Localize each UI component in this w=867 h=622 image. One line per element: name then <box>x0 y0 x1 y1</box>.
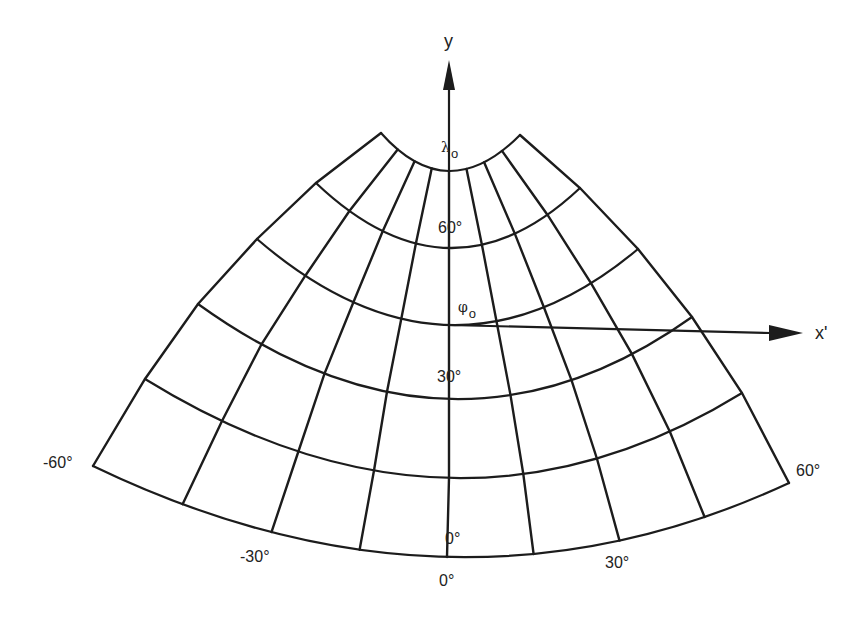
x-axis-arrowhead-icon <box>769 325 803 341</box>
axes-group <box>443 60 803 341</box>
parallel-0-label: 0° <box>445 531 460 547</box>
lambda-symbol: λ <box>441 139 450 155</box>
meridian-0-label: 0° <box>439 573 454 589</box>
meridian-15 <box>467 169 534 554</box>
meridian-60-label: 60° <box>796 463 820 479</box>
meridian-45 <box>502 151 705 517</box>
central-meridian-label: λo <box>441 139 457 154</box>
parallel-30-label: 30° <box>437 369 461 385</box>
meridian-60 <box>520 135 789 483</box>
meridian-30-label: 30° <box>605 555 629 571</box>
phi-symbol: φ <box>458 299 468 315</box>
parallel-60-label: 60° <box>438 220 462 236</box>
standard-parallel-label: φo <box>458 299 475 314</box>
meridian--30 <box>272 161 415 532</box>
meridian--60 <box>93 133 381 466</box>
phi-subscript: o <box>469 306 476 321</box>
parallel-0 <box>93 466 789 557</box>
meridian--45 <box>183 149 398 504</box>
meridian-30 <box>484 162 619 540</box>
meridian-minus60-label: -60° <box>43 455 73 471</box>
meridians-group <box>93 133 789 557</box>
graticule-diagram <box>0 0 867 622</box>
parallels-group <box>93 133 789 557</box>
parallel-45 <box>257 239 638 325</box>
meridian-minus30-label: -30° <box>240 549 270 565</box>
lambda-subscript: o <box>451 146 458 161</box>
y-axis-label: y <box>444 32 453 50</box>
y-axis-arrowhead-icon <box>443 60 455 90</box>
x-axis-label: x' <box>815 324 827 342</box>
